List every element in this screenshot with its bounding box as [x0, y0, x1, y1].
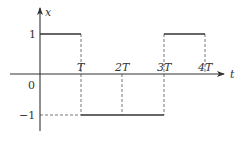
- x-tick-T: T: [77, 61, 86, 74]
- square-wave-diagram: x t 0 1 −1 T 2T 3T 4T: [0, 0, 251, 142]
- x-tick-3T: 3T: [157, 61, 173, 74]
- x-tick-2T: 2T: [114, 61, 131, 74]
- x-axis-label: t: [230, 68, 235, 81]
- y-tick-1: 1: [29, 28, 36, 41]
- x-tick-4T: 4T: [197, 61, 214, 74]
- y-axis-label: x: [45, 6, 52, 19]
- origin-label: 0: [28, 79, 35, 92]
- y-tick-minus-1: −1: [19, 109, 35, 122]
